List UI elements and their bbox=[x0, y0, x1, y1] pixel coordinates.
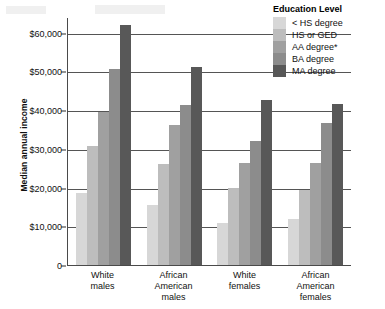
legend-item[interactable]: AA degree* bbox=[273, 41, 383, 53]
x-axis-label-line: females bbox=[280, 292, 351, 303]
bar bbox=[299, 190, 310, 265]
y-tick-mark bbox=[61, 33, 66, 34]
x-axis-label-line: American bbox=[138, 281, 209, 292]
bar bbox=[147, 205, 158, 265]
bar bbox=[250, 141, 261, 265]
bar bbox=[228, 188, 239, 266]
bar bbox=[158, 164, 169, 265]
x-axis-label: Whitemales bbox=[67, 270, 138, 303]
legend: Education Level < HS degreeHS or GEDAA d… bbox=[273, 4, 383, 77]
bar-group bbox=[68, 18, 139, 265]
legend-item[interactable]: BA degree bbox=[273, 53, 383, 65]
bar bbox=[98, 112, 109, 265]
x-axis-label-line: males bbox=[67, 281, 138, 292]
x-axis-label: Whitefemales bbox=[209, 270, 280, 303]
y-tick-mark bbox=[61, 227, 66, 228]
y-tick-mark bbox=[61, 111, 66, 112]
bar bbox=[180, 105, 191, 265]
x-axis-label-line: African bbox=[280, 270, 351, 281]
bar bbox=[191, 67, 202, 265]
y-axis-ticks: $60,000$50,000$40,000$30,000$20,000$10,0… bbox=[0, 0, 66, 309]
x-axis-label-line: females bbox=[209, 281, 280, 292]
bar-group bbox=[139, 18, 210, 265]
legend-label: BA degree bbox=[292, 54, 334, 64]
x-axis-label-line: American bbox=[280, 281, 351, 292]
legend-item[interactable]: < HS degree bbox=[273, 17, 383, 29]
legend-label: AA degree* bbox=[292, 42, 338, 52]
bar bbox=[87, 146, 98, 265]
bar-chart: Median annual income $60,000$50,000$40,0… bbox=[0, 0, 385, 309]
legend-swatch bbox=[273, 41, 286, 53]
legend-swatch bbox=[273, 29, 286, 41]
x-axis-label: AfricanAmericanmales bbox=[138, 270, 209, 303]
y-tick-label: $40,000 bbox=[29, 106, 62, 116]
bar bbox=[261, 100, 272, 265]
legend-label: HS or GED bbox=[292, 30, 337, 40]
bar-group-bars bbox=[76, 18, 131, 265]
y-tick-mark bbox=[61, 149, 66, 150]
scan-artifact bbox=[95, 5, 165, 14]
legend-label: MA degree bbox=[292, 66, 336, 76]
y-tick-label: $20,000 bbox=[29, 184, 62, 194]
bar-group-bars bbox=[217, 18, 272, 265]
bar bbox=[217, 223, 228, 265]
bar bbox=[169, 125, 180, 265]
bar bbox=[76, 193, 87, 265]
x-axis-label-line: males bbox=[138, 292, 209, 303]
y-tick-mark bbox=[61, 188, 66, 189]
x-axis-label-line: White bbox=[209, 270, 280, 281]
legend-swatch bbox=[273, 53, 286, 65]
legend-title: Education Level bbox=[273, 4, 383, 14]
bar bbox=[288, 219, 299, 266]
bar-group bbox=[210, 18, 281, 265]
x-axis-label-line: White bbox=[67, 270, 138, 281]
legend-item[interactable]: MA degree bbox=[273, 65, 383, 77]
legend-items: < HS degreeHS or GEDAA degree*BA degreeM… bbox=[273, 17, 383, 77]
y-tick-label: $30,000 bbox=[29, 145, 62, 155]
bar bbox=[321, 123, 332, 265]
y-tick-label: $60,000 bbox=[29, 29, 62, 39]
y-tick-label: $50,000 bbox=[29, 67, 62, 77]
bar-group-bars bbox=[147, 18, 202, 265]
bar bbox=[239, 163, 250, 265]
legend-item[interactable]: HS or GED bbox=[273, 29, 383, 41]
y-tick-mark bbox=[61, 72, 66, 73]
x-axis-label-line: African bbox=[138, 270, 209, 281]
bar bbox=[310, 163, 321, 265]
y-tick-mark bbox=[61, 266, 66, 267]
legend-label: < HS degree bbox=[292, 18, 343, 28]
x-axis-label: AfricanAmericanfemales bbox=[280, 270, 351, 303]
x-axis-labels: WhitemalesAfricanAmericanmalesWhitefemal… bbox=[67, 270, 351, 303]
legend-swatch bbox=[273, 65, 286, 77]
bar bbox=[332, 104, 343, 265]
legend-swatch bbox=[273, 17, 286, 29]
y-tick-label: $10,000 bbox=[29, 222, 62, 232]
bar bbox=[120, 25, 131, 265]
bar bbox=[109, 69, 120, 265]
